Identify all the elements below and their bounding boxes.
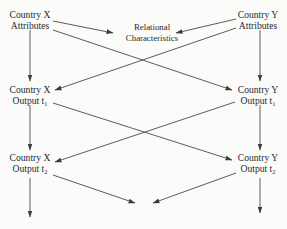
time-subscript: 1 bbox=[272, 100, 275, 107]
country-interaction-diagram: Country X Attributes Country Y Attribute… bbox=[0, 0, 287, 229]
node-label-text: Output t bbox=[13, 95, 45, 106]
edge-y-output-t1-to-x-output-t2 bbox=[55, 102, 235, 162]
node-label-line1: Country Y bbox=[232, 9, 284, 20]
node-label-line2: Output t2 bbox=[4, 163, 56, 174]
node-label-line2: Attributes bbox=[4, 20, 56, 31]
node-label-text: Output t bbox=[241, 95, 273, 106]
node-country-x-output-t1: Country X Output t1 bbox=[4, 84, 56, 106]
node-label-line1: Country X bbox=[4, 152, 56, 163]
time-subscript: 2 bbox=[44, 168, 47, 175]
node-label-line2: Attributes bbox=[232, 20, 284, 31]
node-label-line2: Output t1 bbox=[4, 95, 56, 106]
node-label-text: Output t bbox=[13, 163, 45, 174]
node-country-y-attributes: Country Y Attributes bbox=[232, 9, 284, 31]
edge-x-output-t2-to-continuation bbox=[53, 175, 135, 203]
node-label-line2: Characteristics bbox=[113, 33, 191, 44]
node-label-line1: Relational bbox=[113, 22, 191, 33]
node-country-y-output-t2: Country Y Output t2 bbox=[232, 152, 284, 174]
node-label-line2: Output t1 bbox=[232, 95, 284, 106]
node-country-x-output-t2: Country X Output t2 bbox=[4, 152, 56, 174]
node-label-line1: Country Y bbox=[232, 152, 284, 163]
time-subscript: 1 bbox=[44, 100, 47, 107]
edge-x-attributes-to-relational bbox=[53, 21, 113, 33]
edge-y-output-t2-to-continuation bbox=[153, 173, 236, 203]
node-label-line1: Country Y bbox=[232, 84, 284, 95]
node-label-line1: Country X bbox=[4, 84, 56, 95]
node-relational-characteristics: Relational Characteristics bbox=[113, 22, 191, 44]
node-label-line2: Output t2 bbox=[232, 163, 284, 174]
node-country-x-attributes: Country X Attributes bbox=[4, 9, 56, 31]
time-subscript: 2 bbox=[272, 168, 275, 175]
node-label-text: Output t bbox=[241, 163, 273, 174]
node-country-y-output-t1: Country Y Output t1 bbox=[232, 84, 284, 106]
node-label-line1: Country X bbox=[4, 9, 56, 20]
